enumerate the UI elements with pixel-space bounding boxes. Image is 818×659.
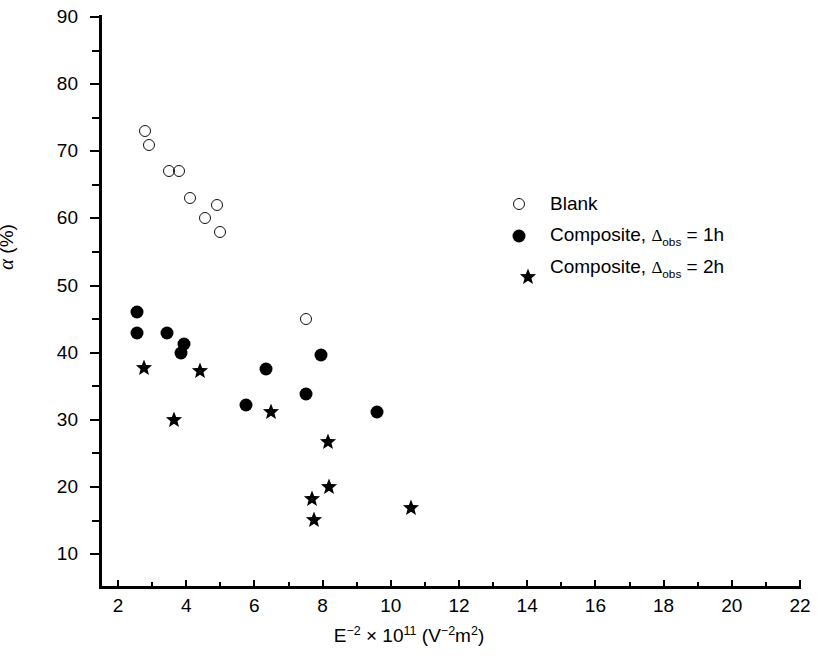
data-point-s0-1 xyxy=(143,139,155,151)
legend-symbol-filled-circle xyxy=(510,226,550,246)
y-tick-label-90: 90 xyxy=(44,7,78,26)
legend-item-2[interactable]: Composite, Δobs = 2h xyxy=(510,252,724,284)
x-tick-label-18: 18 xyxy=(644,596,684,615)
x-tick-label-20: 20 xyxy=(712,596,752,615)
plot-area xyxy=(100,17,800,587)
data-point-s0-3 xyxy=(173,165,185,177)
x-tick-label-22: 22 xyxy=(780,596,818,615)
legend-item-0[interactable]: Blank xyxy=(510,188,724,220)
legend-label-1: Composite, Δobs = 1h xyxy=(550,224,724,248)
x-axis-title: E−2 × 1011 (V−2m2) xyxy=(0,624,818,647)
x-axis-units-close: ) xyxy=(478,625,484,646)
legend-label-2: Composite, Δobs = 2h xyxy=(550,256,724,280)
legend-item-1[interactable]: Composite, Δobs = 1h xyxy=(510,220,724,252)
y-axis-title: α (%) xyxy=(0,150,19,270)
y-axis-symbol: α xyxy=(0,259,18,270)
data-point-s1-9 xyxy=(371,405,384,418)
data-point-s1-2 xyxy=(161,326,174,339)
open-circle-marker xyxy=(513,198,525,210)
y-minor-tick-35 xyxy=(92,385,99,387)
y-minor-tick-75 xyxy=(92,117,99,119)
legend-symbol-star xyxy=(510,258,550,278)
data-point-s0-6 xyxy=(211,199,223,211)
x-axis-units-m: m xyxy=(455,625,471,646)
y-tick-label-50: 50 xyxy=(44,276,78,295)
y-tick-10 xyxy=(90,553,99,555)
x-axis-base: E xyxy=(334,625,347,646)
y-tick-70 xyxy=(90,150,99,152)
y-tick-label-20: 20 xyxy=(44,477,78,496)
y-tick-30 xyxy=(90,419,99,421)
x-axis-units-open: (V xyxy=(417,625,441,646)
data-point-s1-7 xyxy=(299,387,312,400)
data-point-s1-5 xyxy=(239,399,252,412)
x-tick-label-4: 4 xyxy=(166,596,206,615)
y-tick-80 xyxy=(90,83,99,85)
y-tick-40 xyxy=(90,352,99,354)
data-point-s0-5 xyxy=(199,212,211,224)
x-axis-units-m-exponent: 2 xyxy=(471,624,478,638)
y-tick-label-70: 70 xyxy=(44,141,78,160)
y-tick-label-40: 40 xyxy=(44,343,78,362)
y-minor-tick-55 xyxy=(92,251,99,253)
data-point-s0-8 xyxy=(300,313,312,325)
y-tick-60 xyxy=(90,217,99,219)
y-minor-tick-45 xyxy=(92,318,99,320)
x-axis-exponent: −2 xyxy=(346,624,360,638)
y-tick-20 xyxy=(90,486,99,488)
y-tick-50 xyxy=(90,285,99,287)
y-minor-tick-65 xyxy=(92,184,99,186)
data-point-s1-8 xyxy=(314,349,327,362)
y-tick-label-10: 10 xyxy=(44,544,78,563)
x-axis-power: 11 xyxy=(404,624,417,638)
x-tick-label-10: 10 xyxy=(371,596,411,615)
y-tick-label-60: 60 xyxy=(44,208,78,227)
y-tick-90 xyxy=(90,16,99,18)
legend-label-0: Blank xyxy=(550,193,598,215)
data-point-s1-0 xyxy=(130,306,143,319)
x-tick-label-14: 14 xyxy=(507,596,547,615)
y-minor-tick-15 xyxy=(92,520,99,522)
x-tick-label-2: 2 xyxy=(98,596,138,615)
data-point-s1-4 xyxy=(175,346,188,359)
y-minor-tick-85 xyxy=(92,50,99,52)
y-tick-label-30: 30 xyxy=(44,410,78,429)
y-minor-tick-25 xyxy=(92,452,99,454)
y-axis-unit: (%) xyxy=(0,224,17,259)
x-tick-label-16: 16 xyxy=(575,596,615,615)
x-tick-label-12: 12 xyxy=(439,596,479,615)
legend-symbol-open-circle xyxy=(510,194,550,214)
x-axis-multiplier: × 10 xyxy=(361,625,404,646)
x-axis-units-exponent: −2 xyxy=(441,624,455,638)
data-point-s1-1 xyxy=(130,326,143,339)
data-point-s0-7 xyxy=(214,226,226,238)
filled-circle-marker xyxy=(513,230,526,243)
y-tick-label-80: 80 xyxy=(44,74,78,93)
chart-root: 102030405060708090 246810121416182022 α … xyxy=(0,0,818,659)
data-point-s0-4 xyxy=(184,192,196,204)
x-tick-label-8: 8 xyxy=(303,596,343,615)
data-point-s1-6 xyxy=(260,362,273,375)
chart-legend: BlankComposite, Δobs = 1hComposite, Δobs… xyxy=(510,188,724,284)
data-point-s0-0 xyxy=(139,125,151,137)
x-tick-label-6: 6 xyxy=(234,596,274,615)
